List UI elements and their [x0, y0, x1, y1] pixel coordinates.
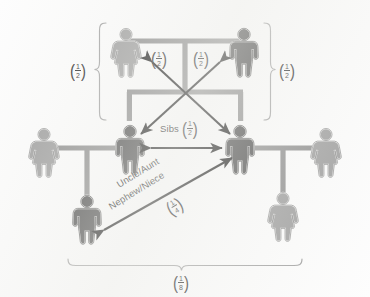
pedigree-vector-canvas	[0, 0, 370, 297]
pedigree-diagram: (12) (12) Sibs (12) Uncle/Aunt Nephew/Ni…	[0, 0, 370, 297]
person-spouse-right	[311, 129, 342, 178]
label-brace-bottom: (18)	[173, 274, 189, 292]
person-child-right	[268, 193, 299, 242]
brace-bottom	[68, 259, 302, 271]
person-grandfather	[230, 28, 259, 77]
label-sibs: Sibs (12)	[160, 120, 198, 136]
person-spouse-left	[29, 129, 60, 178]
person-child-left	[73, 195, 102, 244]
label-parent-left-fraction: (12)	[151, 50, 167, 68]
brace-right	[264, 23, 276, 120]
label-parent-right-fraction: (12)	[193, 50, 209, 68]
person-grandmother	[111, 29, 142, 78]
label-brace-left: (12)	[70, 62, 86, 80]
sibs-text: Sibs	[160, 123, 179, 134]
brace-left	[95, 23, 107, 120]
label-brace-right: (12)	[279, 62, 295, 80]
